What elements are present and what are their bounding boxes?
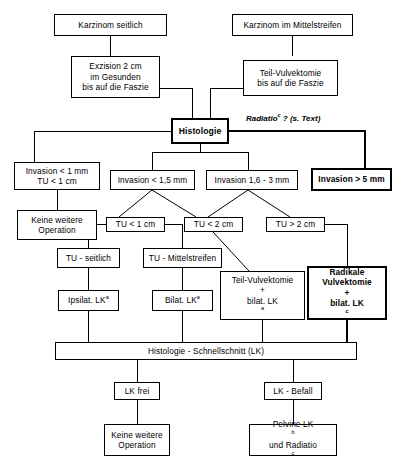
node-bilat-lk[interactable]: Bilat. LKa	[152, 290, 213, 311]
connector-tumittel-to-bilat	[182, 268, 183, 290]
connector-tu1cm-right-down	[182, 224, 183, 248]
node-keine-weitere-operation-unten-line2: Operation	[107, 440, 167, 451]
node-karzinom-seitlich-label: Karzinom seitlich	[78, 20, 142, 31]
node-bilat-lk-superscript: a	[197, 294, 200, 300]
connector-tu2cm-right	[325, 224, 348, 225]
connector-schnellschnitt-to-lkbefall	[293, 360, 294, 382]
connector-teilvulvbilat-to-schnellschnitt	[262, 320, 263, 342]
node-radikale-vulvektomie-superscript: c	[345, 308, 348, 314]
node-tu-gt-2cm-label: TU > 2 cm	[276, 219, 315, 230]
node-radikale-vulvektomie[interactable]: Radikale Vulvektomie + bilat. LKc	[307, 266, 387, 320]
node-karzinom-mittelstreifen[interactable]: Karzinom im Mittelstreifen	[232, 14, 353, 36]
node-invasion-lt-1mm-line1: Invasion < 1 mm	[17, 166, 97, 177]
node-tu-gt-2cm[interactable]: TU > 2 cm	[266, 217, 325, 232]
connector-tu1cm-right	[165, 224, 183, 225]
node-histologie-schnellschnitt[interactable]: Histologie - Schnellschnitt (LK)	[55, 342, 357, 360]
node-radikale-vulvektomie-line2: Vulvektomie	[311, 277, 383, 288]
node-histologie[interactable]: Histologie	[171, 118, 229, 144]
node-keine-weitere-operation-links-line1: Keine weitere	[20, 215, 94, 226]
node-keine-weitere-operation-unten-line1: Keine weitere	[107, 430, 167, 441]
node-teil-vulvektomie-bilat-lk-superscript: a	[261, 305, 264, 311]
node-tu-mittelstreifen-label: TU - Mittelstreifen	[149, 253, 216, 264]
connector-radikale-to-schnellschnitt	[346, 320, 348, 342]
connector-tuseitlich-to-ipsilat	[88, 268, 89, 290]
node-histologie-schnellschnitt-label: Histologie - Schnellschnitt (LK)	[148, 346, 264, 357]
node-ipsilat-lk-superscript: a	[106, 294, 109, 300]
node-exzision-line2: im Gesunden	[74, 72, 157, 83]
annotation-radiatio-text: Radiatio	[246, 114, 278, 123]
node-teil-vulvektomie-faszie[interactable]: Teil-Vulvektomie bis auf die Faszie	[243, 60, 338, 96]
node-tu-lt-1cm-label: TU < 1 cm	[116, 219, 155, 230]
node-invasion-lt-15mm-label: Invasion < 1,5 mm	[118, 175, 188, 186]
node-histologie-label: Histologie	[179, 126, 222, 137]
annotation-radiatio: Radiatioc ? (s. Text)	[246, 114, 320, 123]
node-invasion-16-3mm[interactable]: Invasion 1,6 - 3 mm	[206, 170, 298, 190]
node-lk-befall[interactable]: LK - Befall	[264, 382, 322, 400]
node-tu-seitlich[interactable]: TU - seitlich	[57, 248, 120, 268]
node-teil-vulvektomie-bilat-lk-line2: +	[223, 285, 302, 296]
node-pelvine-lk-superscript-b: b	[291, 429, 294, 435]
node-pelvine-lk-superscript-c: c	[292, 450, 295, 456]
node-exzision-line1: Exzision 2 cm	[74, 61, 157, 72]
node-invasion-lt-1mm[interactable]: Invasion < 1 mm TU < 1 cm	[14, 162, 100, 190]
connector-bilat-to-schnellschnitt	[182, 311, 183, 342]
flowchart-canvas: Karzinom seitlich Karzinom im Mittelstre…	[0, 0, 404, 470]
node-tu-lt-2cm[interactable]: TU < 2 cm	[184, 217, 243, 232]
connector-lkfrei-to-keine-op	[137, 400, 138, 424]
connector-ipsilat-to-schnellschnitt	[88, 311, 89, 342]
node-invasion-lt-1mm-line2: TU < 1 cm	[17, 176, 97, 187]
node-invasion-16-3mm-label: Invasion 1,6 - 3 mm	[215, 175, 290, 186]
node-tu-lt-1cm[interactable]: TU < 1 cm	[106, 217, 165, 232]
node-bilat-lk-text: Bilat. LK	[165, 295, 197, 305]
node-invasion-gt-5mm[interactable]: Invasion > 5 mm	[311, 168, 392, 191]
node-radikale-vulvektomie-line3: +	[311, 288, 383, 299]
node-tu-seitlich-label: TU - seitlich	[66, 253, 111, 264]
node-tu-lt-2cm-label: TU < 2 cm	[194, 219, 233, 230]
node-invasion-gt-5mm-label: Invasion > 5 mm	[318, 174, 384, 185]
node-keine-weitere-operation-links-line2: Operation	[20, 225, 94, 236]
connector-schnellschnitt-to-lkfrei	[137, 360, 138, 382]
connector-tu2cm-right-down	[347, 224, 348, 266]
node-radikale-vulvektomie-line1: Radikale	[311, 267, 383, 278]
node-teil-vulvektomie-bilat-lk-line1: Teil-Vulvektomie	[223, 275, 302, 286]
node-karzinom-mittelstreifen-label: Karzinom im Mittelstreifen	[243, 20, 341, 31]
node-lk-frei-label: LK frei	[125, 386, 150, 397]
node-ipsilat-lk[interactable]: Ipsilat. LKa	[58, 290, 119, 311]
node-ipsilat-lk-text: Ipsilat. LK	[68, 295, 106, 305]
node-teil-vulvektomie-bilat-lk[interactable]: Teil-Vulvektomie + bilat. LKa	[220, 271, 305, 320]
node-invasion-lt-15mm[interactable]: Invasion < 1,5 mm	[110, 170, 195, 190]
node-tu-mittelstreifen[interactable]: TU - Mittelstreifen	[143, 248, 222, 268]
node-pelvine-lk-radiatio[interactable]: Pelvine LKb und Radiatioc	[249, 424, 337, 456]
node-keine-weitere-operation-links[interactable]: Keine weitere Operation	[17, 210, 97, 240]
node-exzision[interactable]: Exzision 2 cm im Gesunden bis auf die Fa…	[71, 56, 160, 98]
node-lk-befall-label: LK - Befall	[273, 386, 312, 397]
annotation-radiatio-suffix: ? (s. Text)	[281, 114, 321, 123]
node-exzision-line3: bis auf die Faszie	[74, 82, 157, 93]
node-teil-vulvektomie-faszie-line2: bis auf die Faszie	[246, 78, 335, 89]
node-keine-weitere-operation-unten[interactable]: Keine weitere Operation	[104, 424, 170, 456]
node-teil-vulvektomie-faszie-line1: Teil-Vulvektomie	[246, 68, 335, 79]
node-lk-frei[interactable]: LK frei	[114, 382, 160, 400]
node-karzinom-seitlich[interactable]: Karzinom seitlich	[54, 14, 167, 36]
